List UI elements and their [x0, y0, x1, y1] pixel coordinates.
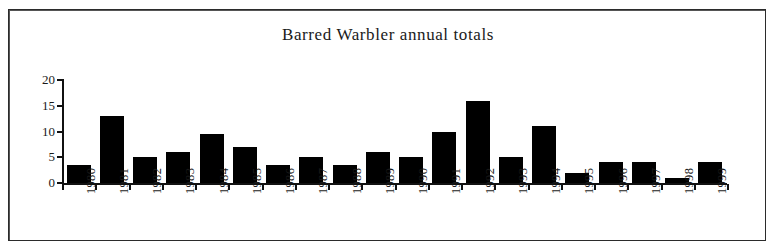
y-tick-label: 0: [15, 176, 55, 189]
x-tick-label: 1989: [383, 168, 398, 194]
x-tick-label: 1982: [150, 168, 165, 194]
x-tick-label: 1993: [516, 168, 531, 194]
y-tick-mark: [57, 131, 63, 133]
x-tick-mark: [62, 184, 64, 190]
x-tick-label: 1994: [549, 168, 564, 194]
chart-figure: Barred Warbler annual totals 05101520 19…: [0, 0, 776, 250]
x-tick-label: 1983: [183, 168, 198, 194]
x-tick-label: 1985: [250, 168, 265, 194]
y-tick-label: 20: [15, 73, 55, 86]
x-tick-label: 1990: [416, 168, 431, 194]
plot-area: 05101520 1980198119821983198419851986198…: [0, 0, 776, 250]
x-tick-label: 1998: [682, 168, 697, 194]
y-tick-mark: [57, 105, 63, 107]
x-tick-label: 1992: [483, 168, 498, 194]
x-tick-label: 1995: [582, 168, 597, 194]
y-tick-label: 10: [15, 125, 55, 138]
x-tick-label: 1991: [449, 168, 464, 194]
y-tick-mark: [57, 156, 63, 158]
x-tick-label: 1988: [350, 168, 365, 194]
y-tick-mark: [57, 79, 63, 81]
x-tick-label: 1997: [649, 168, 664, 194]
x-tick-label: 1999: [715, 168, 730, 194]
x-tick-label: 1980: [84, 168, 99, 194]
x-tick-label: 1987: [316, 168, 331, 194]
x-tick-label: 1981: [117, 168, 132, 194]
x-tick-label: 1984: [217, 168, 232, 194]
y-tick-label: 15: [15, 99, 55, 112]
x-tick-label: 1986: [283, 168, 298, 194]
x-tick-label: 1996: [616, 168, 631, 194]
y-tick-label: 5: [15, 150, 55, 163]
